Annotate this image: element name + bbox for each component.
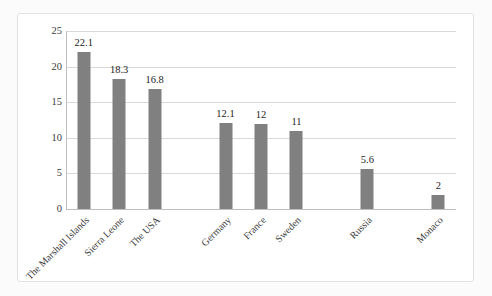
bars-layer: 22.118.316.812.112115.62 (66, 31, 456, 209)
bar[interactable] (254, 124, 267, 209)
bar[interactable] (77, 52, 90, 209)
y-axis-tick-labels: 0510152025 (18, 31, 62, 209)
bar-value-label: 12 (256, 110, 267, 121)
bar-slot (385, 31, 420, 209)
x-label-slot: Sweden (279, 211, 314, 281)
bar-value-label: 12.1 (216, 109, 234, 120)
bar-slot: 18.3 (101, 31, 136, 209)
x-label-slot (172, 211, 207, 281)
bar-value-label: 2 (436, 181, 441, 192)
bar-value-label: 11 (291, 117, 301, 128)
x-tick-label: Sweden (274, 215, 303, 244)
y-tick-label: 0 (22, 204, 62, 215)
bar-slot: 11 (279, 31, 314, 209)
gridline-0 (66, 209, 456, 210)
bar-slot (172, 31, 207, 209)
x-tick-label: Monaco (415, 215, 445, 245)
y-tick-label: 20 (22, 61, 62, 72)
y-tick-label: 10 (22, 133, 62, 144)
bar[interactable] (361, 169, 374, 209)
bar[interactable] (219, 123, 232, 209)
bar-slot: 22.1 (66, 31, 101, 209)
bar-value-label: 18.3 (110, 65, 128, 76)
bar-value-label: 22.1 (75, 38, 93, 49)
y-tick-label: 25 (22, 26, 62, 37)
bar[interactable] (113, 79, 126, 209)
y-tick-label: 5 (22, 168, 62, 179)
x-axis-tick-labels: The Marshall IslandsSierra LeoneThe USAG… (66, 211, 456, 281)
bar-slot: 16.8 (137, 31, 172, 209)
y-tick-label: 15 (22, 97, 62, 108)
bar-slot: 12 (243, 31, 278, 209)
bar-slot: 12.1 (208, 31, 243, 209)
bar-slot (314, 31, 349, 209)
bar[interactable] (148, 89, 161, 209)
x-label-slot: Russia (350, 211, 385, 281)
x-tick-label: France (242, 215, 268, 241)
x-label-slot: The USA (137, 211, 172, 281)
x-tick-label: The Marshall Islands (24, 215, 91, 282)
bar-slot: 2 (421, 31, 456, 209)
x-label-slot: Monaco (421, 211, 456, 281)
x-tick-label: Russia (348, 215, 374, 241)
x-label-slot (314, 211, 349, 281)
bar-value-label: 16.8 (145, 75, 163, 86)
chart-frame: 0510152025 22.118.316.812.112115.62 The … (17, 13, 474, 282)
bar[interactable] (290, 131, 303, 209)
bar[interactable] (432, 195, 445, 209)
bar-value-label: 5.6 (361, 155, 374, 166)
x-label-slot (385, 211, 420, 281)
x-label-slot: France (243, 211, 278, 281)
bar-slot: 5.6 (350, 31, 385, 209)
x-label-slot: Germany (208, 211, 243, 281)
